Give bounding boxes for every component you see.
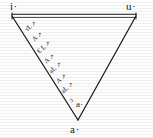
vowel-triangle-figure: i· u· a· a· τL↗ A↗ € L↗ A↗ aL↗ A↗ aL↗ ɔ <box>0 0 153 138</box>
vertex-label-a: a· <box>70 124 80 135</box>
triangle-drawing <box>0 0 153 138</box>
vertex-label-i: i· <box>10 1 18 12</box>
vertex-label-u: u· <box>126 1 136 12</box>
triangle-edge-left <box>12 16 78 120</box>
triangle-edge-right <box>78 16 136 120</box>
interior-label-a: a· <box>76 100 83 109</box>
